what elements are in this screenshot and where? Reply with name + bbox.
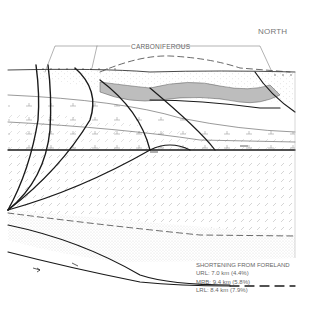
legend-item-mrb: MRB: 9.4 km (5.8%) xyxy=(196,278,290,286)
top-right-dotted xyxy=(272,72,295,80)
shortening-legend: SHORTENING FROM FORELAND URL: 7.0 km (4.… xyxy=(196,261,290,294)
legend-title: SHORTENING FROM FORELAND xyxy=(196,261,290,269)
north-label: NORTH xyxy=(258,27,287,36)
legend-item-url: URL: 7.0 km (4.4%) xyxy=(196,269,290,277)
legend-item-lrl: LRL: 8.4 km (7.9%) xyxy=(196,286,290,294)
carboniferous-label: CARBONIFEROUS xyxy=(131,43,190,50)
